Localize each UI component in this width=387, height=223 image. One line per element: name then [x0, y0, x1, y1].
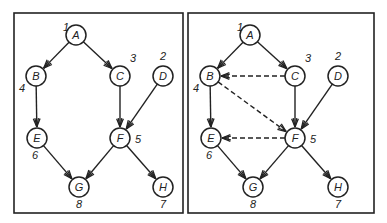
node-order-number: 5 — [135, 133, 142, 145]
edge-a-to-b — [44, 42, 69, 68]
node-order-number: 2 — [334, 50, 341, 62]
edge-b-to-e — [33, 86, 40, 127]
node-c: C3 — [285, 52, 312, 86]
node-order-number: 1 — [237, 21, 243, 33]
edge-d-to-f — [126, 84, 157, 129]
panel-original-graph: A1B4C3D2E6F5G8H7 — [14, 13, 183, 213]
node-order-number: 4 — [19, 82, 25, 94]
node-f: F5 — [285, 128, 317, 148]
node-label: A — [71, 29, 79, 41]
edge-e-to-g — [218, 146, 246, 179]
node-d: D2 — [153, 50, 173, 86]
node-order-number: 3 — [305, 52, 312, 64]
node-order-number: 1 — [63, 21, 69, 33]
node-label: D — [159, 70, 167, 82]
edge-b-to-e — [207, 86, 214, 127]
node-h: H7 — [328, 177, 348, 210]
nodes: A1B4C3D2E6F5G8H7 — [19, 21, 173, 210]
node-b: B4 — [193, 66, 220, 94]
node-label: B — [206, 70, 213, 82]
edge-f-to-h — [127, 146, 156, 179]
node-label: E — [33, 132, 41, 144]
node-label: C — [291, 70, 299, 82]
edges — [207, 42, 332, 179]
node-order-number: 7 — [335, 198, 342, 210]
node-c: C3 — [110, 52, 137, 86]
diagram-canvas: A1B4C3D2E6F5G8H7 A1B4C3D2E6F5G8H7 — [0, 0, 387, 223]
edge-c-to-b — [221, 73, 285, 80]
edge-f-to-g — [260, 146, 288, 179]
edge-d-to-f — [301, 84, 332, 129]
node-a: A1 — [63, 21, 86, 45]
edge-e-to-g — [44, 146, 72, 179]
node-label: H — [159, 181, 167, 193]
node-label: G — [75, 181, 84, 193]
node-e: E6 — [27, 128, 47, 161]
arrowhead-icon — [222, 138, 231, 140]
edge-c-to-f — [117, 86, 124, 127]
node-label: H — [334, 181, 342, 193]
node-order-number: 2 — [159, 50, 166, 62]
node-h: H7 — [153, 177, 173, 210]
node-order-number: 3 — [130, 52, 137, 64]
node-f: F5 — [110, 128, 142, 148]
edges — [33, 42, 157, 179]
edge-a-to-c — [83, 42, 112, 69]
nodes: A1B4C3D2E6F5G8H7 — [193, 21, 348, 210]
edge-f-to-h — [302, 146, 331, 179]
node-label: D — [334, 70, 342, 82]
node-d: D2 — [328, 50, 348, 86]
node-order-number: 8 — [250, 198, 257, 210]
node-label: G — [249, 181, 258, 193]
edge-f-to-e — [222, 135, 285, 142]
panel-graph-with-added-edges: A1B4C3D2E6F5G8H7 — [188, 13, 374, 213]
node-label: B — [32, 70, 39, 82]
edge-a-to-b — [218, 42, 243, 68]
node-order-number: 4 — [193, 82, 199, 94]
node-g: G8 — [243, 177, 263, 210]
node-order-number: 6 — [206, 149, 213, 161]
node-order-number: 7 — [160, 198, 167, 210]
node-label: A — [245, 29, 253, 41]
node-order-number: 5 — [310, 133, 317, 145]
node-b: B4 — [19, 66, 46, 94]
node-label: C — [116, 70, 124, 82]
node-order-number: 8 — [76, 198, 83, 210]
node-a: A1 — [237, 21, 260, 45]
edge-a-to-c — [257, 42, 286, 69]
edge-c-to-f — [292, 86, 299, 127]
edge-f-to-g — [86, 146, 114, 179]
node-label: E — [207, 132, 215, 144]
node-e: E6 — [201, 128, 221, 161]
node-order-number: 6 — [32, 149, 39, 161]
node-g: G8 — [69, 177, 89, 210]
edge-b-to-f — [218, 82, 286, 132]
